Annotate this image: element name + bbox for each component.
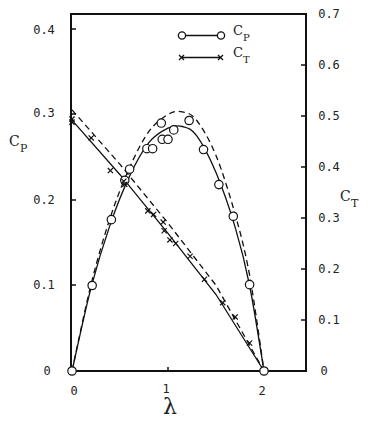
svg-text:T: T — [243, 54, 250, 65]
ct-data-point — [167, 237, 172, 242]
left-tick-0.1: 0.1 — [33, 278, 55, 292]
chart-svg: 0 0.1 0.2 0.3 0.4 0 0.1 0.2 0.3 0.4 0.5 … — [0, 0, 373, 423]
ct-data-point — [202, 277, 207, 282]
legend-item-cp: C P — [178, 23, 250, 43]
cp-data-point — [170, 126, 178, 134]
left-tick-0.4: 0.4 — [33, 23, 55, 37]
left-tick-0.3: 0.3 — [33, 106, 55, 120]
cp-data-point — [199, 145, 207, 153]
right-tick-0.6: 0.6 — [318, 58, 340, 72]
svg-text:P: P — [20, 142, 28, 155]
c-t-solid-curve — [72, 120, 264, 371]
cp-data-point — [245, 280, 253, 288]
legend: C P C T — [178, 23, 250, 65]
right-tick-0.3: 0.3 — [318, 211, 340, 225]
markers-layer — [68, 116, 268, 375]
ct-data-point — [108, 168, 113, 173]
cp-data-point — [88, 281, 96, 289]
c-t-dashed-curve — [72, 110, 264, 371]
cp-data-point — [185, 116, 193, 124]
cp-data-point — [215, 180, 223, 188]
right-tick-0.1: 0.1 — [318, 313, 340, 327]
right-axis-title: C T — [340, 188, 359, 210]
svg-text:P: P — [243, 32, 250, 43]
cp-data-point — [125, 165, 133, 173]
cp-data-point — [107, 215, 115, 223]
cp-data-point — [164, 135, 172, 143]
left-tick-labels: 0 0.1 0.2 0.3 0.4 — [33, 23, 55, 378]
ct-data-point — [161, 219, 166, 224]
svg-text:C: C — [9, 133, 20, 149]
ct-data-point — [89, 135, 94, 140]
ct-data-point — [173, 241, 178, 246]
x-axis-title: λ — [163, 394, 177, 419]
svg-text:C: C — [233, 45, 243, 60]
x-tick-2: 2 — [258, 384, 265, 398]
right-tick-0: 0 — [320, 364, 327, 378]
ct-data-point — [187, 254, 192, 259]
curves-layer — [72, 110, 264, 371]
left-axis-title: C P — [9, 133, 28, 155]
cp-data-point — [68, 367, 76, 375]
cp-data-point — [148, 145, 156, 153]
cp-data-point — [260, 367, 268, 375]
right-tick-0.2: 0.2 — [318, 262, 340, 276]
svg-text:C: C — [340, 188, 351, 204]
legend-item-ct: C T — [179, 45, 250, 65]
right-tick-0.4: 0.4 — [318, 160, 340, 174]
svg-text:T: T — [351, 197, 359, 210]
plot-frame — [71, 14, 306, 371]
left-tick-0.2: 0.2 — [33, 193, 55, 207]
cp-data-point — [229, 212, 237, 220]
right-tick-labels: 0 0.1 0.2 0.3 0.4 0.5 0.6 0.7 — [318, 7, 340, 378]
svg-text:C: C — [233, 23, 243, 38]
right-tick-0.5: 0.5 — [318, 109, 340, 123]
right-tick-0.7: 0.7 — [318, 7, 340, 21]
left-tick-0: 0 — [43, 364, 50, 378]
x-tick-0: 0 — [70, 384, 77, 398]
cp-data-point — [157, 119, 165, 127]
